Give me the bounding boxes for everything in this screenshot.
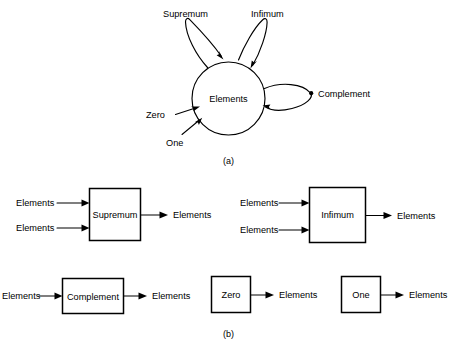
zero-block-label: Zero <box>222 290 241 300</box>
complement-input-arrowhead <box>55 293 63 300</box>
infimum-input1-label: Elements <box>240 198 279 208</box>
lattice-operations-figure: Supremum Infimum Complement Elements Zer… <box>0 0 459 349</box>
zero-input-label: Zero <box>146 110 165 120</box>
panel-a-caption: (a) <box>223 156 234 166</box>
complement-output-arrowhead <box>139 293 148 300</box>
complement-loop-dot <box>309 91 313 95</box>
complement-input-label: Elements <box>2 291 41 301</box>
supremum-input2-label: Elements <box>16 223 55 233</box>
infimum-input2-label: Elements <box>240 225 279 235</box>
supremum-input1-label: Elements <box>16 198 55 208</box>
zero-block: Zero Elements <box>212 277 318 313</box>
infimum-input2-arrowhead <box>302 227 310 234</box>
supremum-block-label: Supremum <box>93 210 138 220</box>
infimum-input1-arrowhead <box>302 200 310 207</box>
infimum-block-label: Infimum <box>321 210 354 220</box>
complement-block-label: Complement <box>67 292 120 302</box>
supremum-loop-path <box>185 18 221 67</box>
panel-a: Supremum Infimum Complement Elements Zer… <box>146 9 371 166</box>
infimum-output-arrowhead <box>384 212 393 219</box>
one-output-arrowhead <box>396 292 405 299</box>
infimum-block: Infimum Elements Elements Elements <box>240 188 436 243</box>
panel-b-caption: (b) <box>223 329 234 339</box>
supremum-input1-arrowhead <box>82 200 90 207</box>
complement-loop-label: Complement <box>318 89 371 99</box>
supremum-arrowhead <box>217 51 224 60</box>
one-block-label: One <box>352 290 369 300</box>
one-output-label: Elements <box>409 290 448 300</box>
complement-block: Complement Elements Elements <box>2 279 191 314</box>
infimum-arrowhead <box>251 61 258 69</box>
supremum-block: Supremum Elements Elements Elements <box>16 189 212 241</box>
zero-output-arrowhead <box>266 292 275 299</box>
infimum-loop-path <box>239 19 268 66</box>
infimum-loop-label: Infimum <box>251 9 284 19</box>
one-block: One Elements <box>342 277 448 313</box>
complement-output-label: Elements <box>152 291 191 301</box>
supremum-output-arrowhead <box>160 212 169 219</box>
zero-output-label: Elements <box>279 290 318 300</box>
supremum-output-label: Elements <box>173 210 212 220</box>
infimum-output-label: Elements <box>397 211 436 221</box>
supremum-input2-arrowhead <box>82 225 90 232</box>
one-input-label: One <box>166 138 183 148</box>
panel-b: Supremum Elements Elements Elements Infi… <box>2 188 448 340</box>
elements-node-label: Elements <box>209 94 248 104</box>
complement-loop-path <box>265 84 312 110</box>
supremum-loop-label: Supremum <box>163 9 208 19</box>
